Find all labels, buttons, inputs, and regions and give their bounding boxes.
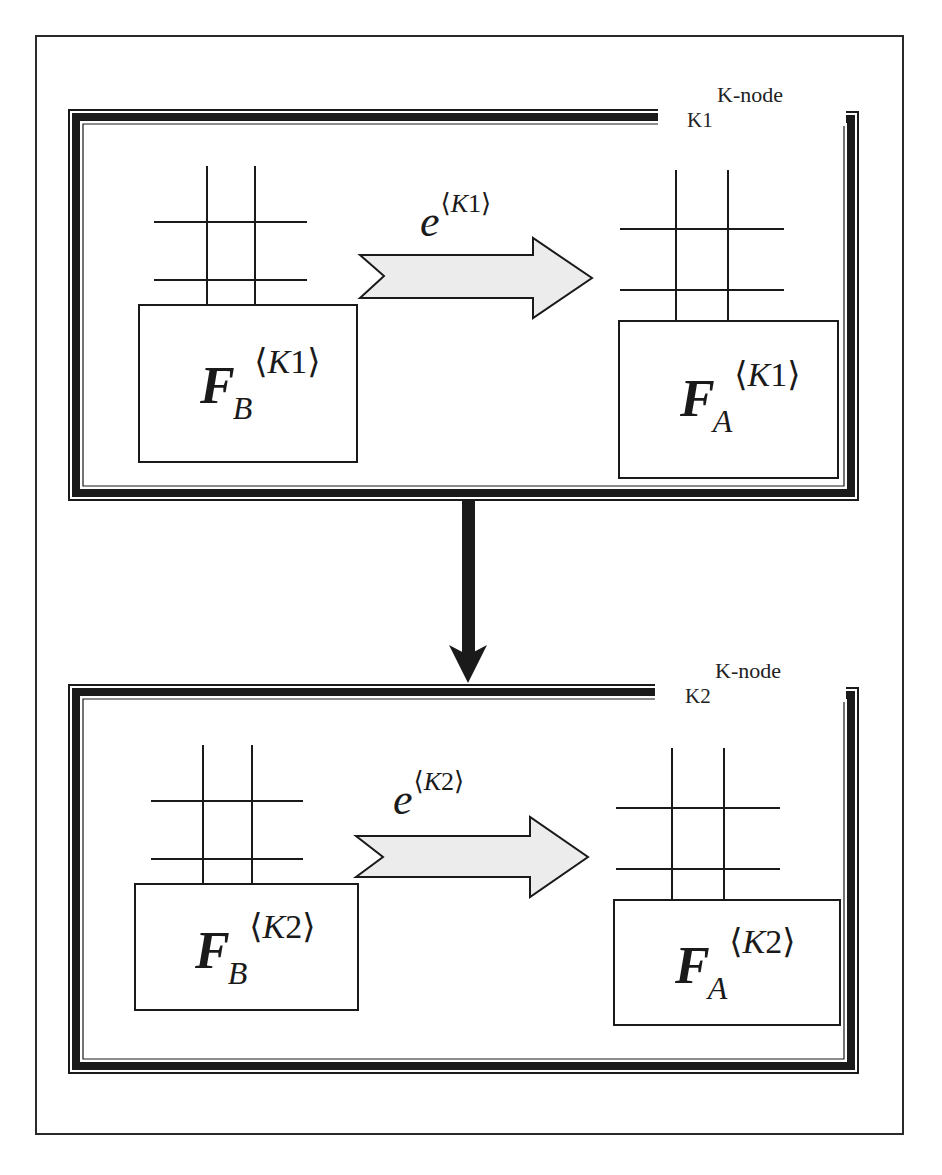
k1-node-id-label: K1 <box>687 110 713 131</box>
k2-node-id-label: K2 <box>685 686 711 707</box>
edge-sup: ⟨K1⟩ <box>441 189 492 218</box>
k1-right-grid <box>620 170 784 320</box>
k2-edge-arrow <box>356 817 588 897</box>
k1-fb-label: FB⟨K1⟩ <box>200 360 320 412</box>
diagram-canvas <box>0 0 942 1175</box>
k2-edge-label: e⟨K2⟩ <box>393 778 464 822</box>
k2-node-type-label: K-node <box>715 660 781 682</box>
k1-left-grid <box>154 166 307 305</box>
k1-fa-label: FA⟨K1⟩ <box>680 373 800 425</box>
k1-edge-label: e⟨K1⟩ <box>420 200 491 244</box>
k2-fa-label: FA⟨K2⟩ <box>675 940 795 992</box>
k1-to-k2-arrow <box>449 500 487 683</box>
k2-left-grid <box>151 745 303 884</box>
k2-right-grid <box>616 748 780 900</box>
k2-fb-label: FB⟨K2⟩ <box>195 925 315 977</box>
k1-node-type-label: K-node <box>717 84 783 106</box>
edge-base: e <box>420 197 440 246</box>
k1-edge-arrow <box>360 238 592 318</box>
